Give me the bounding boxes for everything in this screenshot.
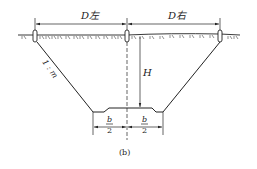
right-stake bbox=[218, 30, 222, 42]
d-right-label: D右 bbox=[167, 10, 188, 21]
bottom-dimensions bbox=[93, 112, 163, 135]
left-stake bbox=[33, 30, 37, 42]
cross-section-diagram: D左 D右 H 1 : m b 2 b 2 (b) bbox=[0, 0, 257, 169]
half-width-left-num: b bbox=[107, 115, 112, 124]
top-dimensions bbox=[35, 18, 220, 30]
half-width-left-den: 2 bbox=[107, 126, 112, 135]
trench-profile bbox=[37, 42, 220, 112]
d-left-label: D左 bbox=[80, 10, 100, 21]
slope-label: 1 : m bbox=[40, 58, 59, 80]
half-width-right-num: b bbox=[142, 115, 147, 124]
center-stake bbox=[125, 30, 129, 42]
figure-caption: (b) bbox=[119, 148, 130, 157]
height-label: H bbox=[142, 67, 152, 78]
half-width-right-den: 2 bbox=[142, 126, 147, 135]
